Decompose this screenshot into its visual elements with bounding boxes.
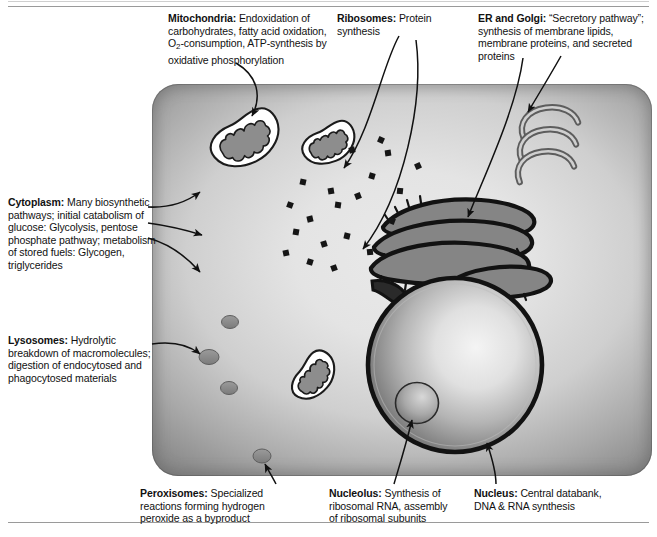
nucleus-label: Nucleus: Central databank, DNA & RNA syn… (474, 487, 642, 512)
er-golgi-label: ER and Golgi: “Secretory pathway”; synth… (478, 12, 656, 62)
nucleus-label-line2: DNA & RNA synthesis (474, 500, 575, 512)
lysosome-1 (222, 316, 239, 329)
nucleolus-label: Nucleolus: Synthesis of ribosomal RNA, a… (329, 487, 469, 525)
mitochondria-label-line1: Endoxidation of (236, 12, 310, 24)
nucleus-label-line1: Central databank, (518, 487, 602, 499)
mitochondria-label: Mitochondria: Endoxidation of carbohydra… (168, 12, 353, 66)
cytoplasm-label-line5: of stored fuels: Glycogen, (8, 246, 124, 258)
lysosomes-label-title: Lysosomes: (8, 334, 68, 346)
nucleolus-label-title: Nucleolus: (329, 487, 382, 499)
er-golgi-label-title: ER and Golgi: (478, 12, 546, 24)
cytoplasm-label-line4: phosphate pathway; metabolism (8, 234, 156, 246)
nucleus (368, 278, 542, 452)
peroxisomes-label-line1: Specialized (208, 487, 263, 499)
mitochondrion-lower (287, 346, 343, 408)
arrow-golgi (528, 56, 561, 112)
nucleolus-label-line2: ribosomal RNA, assembly (329, 500, 448, 512)
nucleolus-label-line3: of ribosomal subunits (329, 512, 426, 524)
lysosomes-label: Lysosomes: Hydrolytic breakdown of macro… (8, 334, 160, 384)
peroxisomes-label: Peroxisomes: Specialized reactions formi… (140, 487, 296, 525)
cytoplasm-label-title: Cytoplasm: (8, 196, 64, 208)
arrow-mitochondria (236, 63, 257, 116)
peroxisomes-label-line3: peroxide as a byproduct (140, 512, 250, 524)
ribosomes-label-title: Ribosomes: (337, 12, 396, 24)
mitochondria-label-line4: oxidative phosphorylation (168, 54, 284, 66)
golgi-apparatus (515, 104, 579, 183)
peroxisomes-label-title: Peroxisomes: (140, 487, 208, 499)
mitochondria-label-line2: carbohydrates, fatty acid oxidation, (168, 25, 327, 37)
lysosomes-label-line2: breakdown of macromolecules; (8, 347, 151, 359)
cytoplasm-label-line1: Many biosynthetic (64, 196, 149, 208)
nucleus-label-title: Nucleus: (474, 487, 518, 499)
lysosomes-label-line4: phagocytosed materials (8, 372, 117, 384)
peroxisome (253, 449, 271, 463)
ribosomes-label-line2: synthesis (337, 25, 380, 37)
nucleolus (396, 383, 439, 424)
lysosome-3 (221, 382, 238, 395)
mitochondria-label-line3b: -consumption, ATP-synthesis by (180, 37, 326, 49)
cytoplasm-label-line3: glucose: Glycolysis, pentose (8, 221, 138, 233)
er-golgi-label-line2: synthesis of membrane lipids, (478, 25, 613, 37)
er-golgi-label-line1: “Secretory pathway”; (546, 12, 644, 24)
mitochondrion-upper-right (298, 116, 363, 173)
figure-canvas: Mitochondria: Endoxidation of carbohydra… (0, 0, 657, 537)
arrow-cytoplasm-2 (148, 223, 202, 235)
cytoplasm-label-line6: triglycerides (8, 259, 63, 271)
arrow-er (468, 58, 523, 217)
lysosomes-label-line3: digestion of endocytosed and (8, 359, 142, 371)
arrow-peroxisomes (265, 464, 276, 484)
arrow-nucleus (487, 443, 496, 484)
mitochondria-label-title: Mitochondria: (168, 12, 236, 24)
cytoplasm-label-line2: pathways; initial catabolism of (8, 209, 144, 221)
mitochondrion-upper-left (204, 102, 290, 179)
lysosomes-label-line1: Hydrolytic (68, 334, 116, 346)
nucleolus-label-line1: Synthesis of (382, 487, 441, 499)
er-golgi-label-line4: proteins (478, 50, 515, 62)
peroxisomes-label-line2: reactions forming hydrogen (140, 500, 265, 512)
lysosome-2 (199, 350, 219, 365)
mitochondria-label-line3a: O (168, 37, 176, 49)
ribosomes-label: Ribosomes: Protein synthesis (337, 12, 467, 37)
er-golgi-label-line3: membrane proteins, and secreted (478, 37, 632, 49)
ribosomes-label-line1: Protein (396, 12, 431, 24)
cytoplasm-label: Cytoplasm: Many biosynthetic pathways; i… (8, 196, 156, 272)
